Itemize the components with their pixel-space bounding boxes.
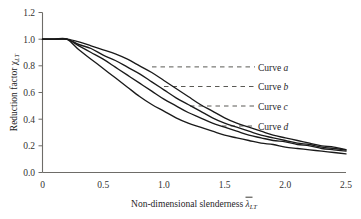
x-tick-label: 0	[40, 180, 45, 190]
legend-prefix: Curve	[258, 102, 281, 112]
x-tick-label: 2.0	[279, 180, 291, 190]
legend-symbol: a	[284, 63, 289, 73]
y-tick-label: 0.6	[23, 88, 35, 98]
y-tick-label: 0.2	[23, 141, 35, 151]
y-axis-title-text: Reduction factor χLT	[9, 52, 20, 131]
y-axis-title-label: Reduction factor	[9, 67, 19, 131]
y-tick-label: 0.0	[23, 168, 35, 178]
chart-figure: 1.2 1.0 0.8 0.6 0.4 0.2 0.0 0 0.5 1.0 1.…	[0, 0, 361, 219]
legend-prefix: Curve	[258, 122, 281, 132]
x-axis-title-label: Non-dimensional slenderness	[131, 199, 243, 209]
legend-item-curve-b: Curve b	[258, 82, 289, 92]
y-axis-title: Reduction factor χLT	[9, 52, 20, 131]
legend-item-curve-a: Curve a	[258, 63, 289, 73]
chart-svg: 1.2 1.0 0.8 0.6 0.4 0.2 0.0 0 0.5 1.0 1.…	[0, 0, 361, 219]
y-tick-label: 0.4	[23, 115, 35, 125]
x-tick-label: 1.5	[219, 180, 231, 190]
legend-prefix: Curve	[258, 82, 281, 92]
legend-item-curve-d: Curve d	[258, 122, 289, 132]
x-axis-symbol-sub: LT	[249, 203, 259, 210]
y-axis-symbol-sub: LT	[13, 52, 20, 62]
x-axis-title-text: Non-dimensional slenderness λLT	[131, 199, 258, 210]
y-tick-label: 1.0	[23, 35, 35, 45]
x-axis-title: Non-dimensional slenderness λLT	[131, 197, 258, 210]
x-tick-label: 2.5	[340, 180, 352, 190]
legend-item-curve-c: Curve c	[258, 102, 289, 112]
y-tick-label: 0.8	[23, 61, 35, 71]
x-tick-label: 0.5	[97, 180, 109, 190]
x-tick-label: 1.0	[158, 180, 170, 190]
legend-prefix: Curve	[258, 63, 281, 73]
chart-background	[0, 0, 361, 219]
legend-symbol: b	[284, 82, 289, 92]
legend-symbol: d	[284, 122, 289, 132]
y-tick-label: 1.2	[23, 8, 35, 18]
